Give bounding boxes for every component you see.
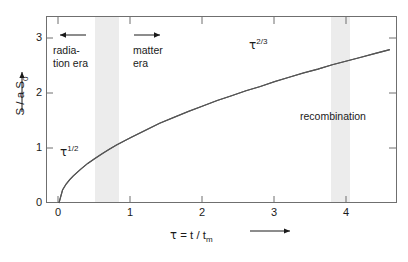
x-axis-title-subscript: m [206,235,213,244]
y-tick-label-0: 0 [28,196,42,208]
radiation-era-line-2: tion era [53,57,88,69]
scale-factor-curve-main [59,50,390,203]
y-axis-title-subscript: 0 [21,77,30,81]
tau-half-annotation: τ1/2 [60,144,78,159]
radiation-era-arrow [60,32,86,38]
chart-drawing-layer [0,0,408,262]
x-tick-label-0: 0 [48,206,68,218]
x-tick-label-2: 2 [192,206,212,218]
x-axis-arrow [250,228,290,233]
matter-era-label: matter era [133,44,163,69]
y-axis-title-main: S / a S [14,81,26,116]
tau-twothirds-exponent: 2/3 [256,37,267,46]
x-axis-title-tau: τ [170,228,177,242]
matter-era-line-2: era [133,57,148,69]
x-axis-title: τ = t / tm [170,228,213,244]
x-tick-label-4: 4 [336,206,356,218]
x-tick-label-3: 3 [264,206,284,218]
matter-era-arrow [134,32,160,38]
y-tick-label-3: 3 [28,31,42,43]
matter-era-line-1: matter [133,44,163,56]
y-tick-label-2: 2 [28,86,42,98]
y-axis-ticks [46,38,396,148]
recombination-label: recombination [300,110,366,123]
tau-twothirds-annotation: τ2/3 [249,37,267,52]
radiation-era-label: radia- tion era [53,44,88,69]
x-tick-label-1: 1 [120,206,140,218]
y-tick-label-1: 1 [28,141,42,153]
radiation-era-line-1: radia- [53,44,80,56]
cosmology-scale-factor-chart: 0 1 2 3 4 3 2 1 0 S / a S0 τ = t / tm ra… [0,0,408,262]
tau-half-exponent: 1/2 [67,144,78,153]
y-axis-title: S / a S0 [14,77,29,116]
scale-factor-curve [59,50,390,203]
x-axis-title-equation: = t / t [177,229,206,241]
